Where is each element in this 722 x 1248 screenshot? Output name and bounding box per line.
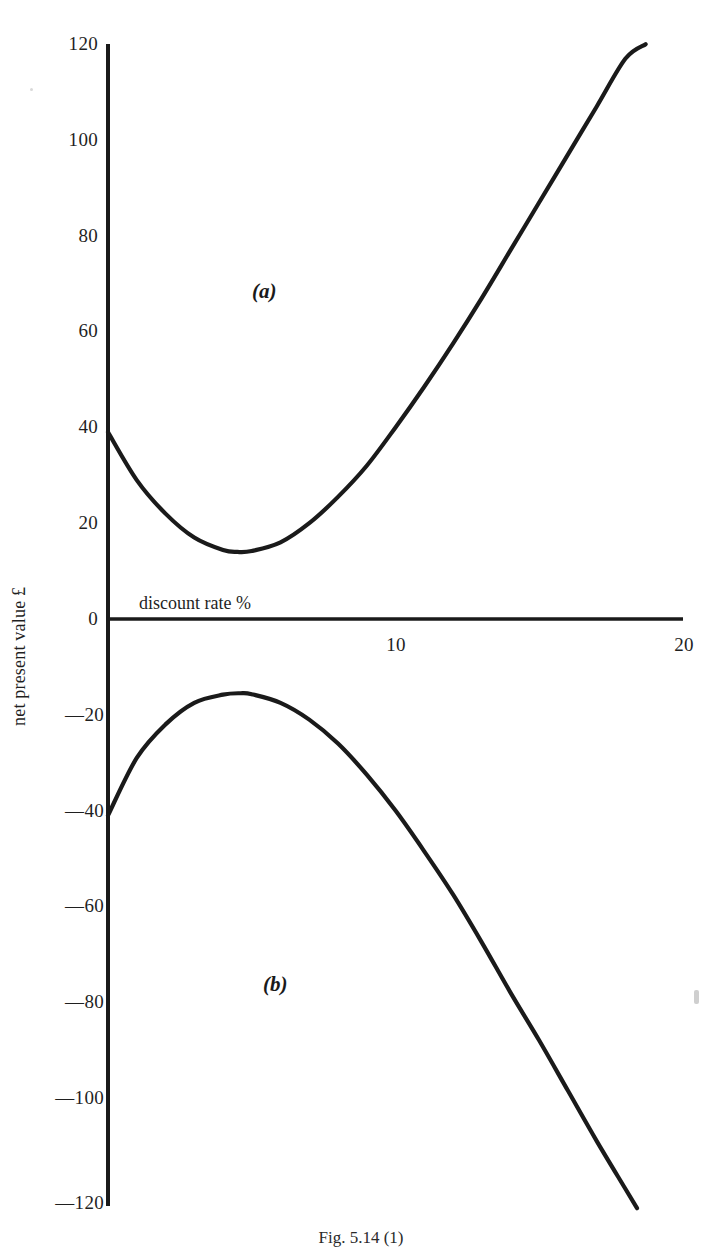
x-tick-label-10: 10 (386, 634, 406, 656)
y-tick-label-neg80: —80 (65, 991, 104, 1013)
y-tick-label-60: 60 (78, 320, 98, 342)
curve-b-line (108, 693, 637, 1208)
y-tick-label-neg100: —100 (55, 1087, 104, 1109)
x-axis-title: discount rate % (139, 593, 251, 614)
y-tick-label-100: 100 (69, 129, 98, 151)
y-tick-label-neg60: —60 (65, 895, 104, 917)
y-tick-label-neg20: —20 (65, 704, 104, 726)
x-tick-label-20: 20 (674, 634, 694, 656)
y-tick-label-20: 20 (78, 512, 98, 534)
scan-speck (694, 990, 699, 1004)
y-tick-label-0: 0 (88, 608, 98, 630)
curve-a-line (108, 44, 646, 552)
curve-b-label: (b) (263, 972, 288, 997)
scan-speck (30, 88, 33, 91)
y-axis-title: net present value £ (9, 587, 30, 726)
figure-caption: Fig. 5.14 (1) (0, 1228, 722, 1248)
y-tick-label-80: 80 (78, 225, 98, 247)
y-tick-label-neg40: —40 (65, 800, 104, 822)
y-tick-label-120: 120 (69, 33, 98, 55)
y-tick-label-40: 40 (78, 416, 98, 438)
curve-a-label: (a) (252, 279, 277, 304)
y-tick-label-neg120: —120 (55, 1192, 104, 1214)
